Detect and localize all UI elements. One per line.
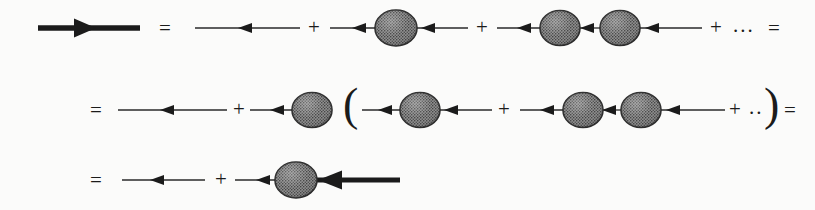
- row-3-group: [122, 162, 400, 198]
- double-self-energy-insertion: [497, 11, 702, 46]
- paren-open-row2: (: [343, 82, 358, 128]
- self-energy-times-full-propagator: [235, 162, 400, 198]
- equals-sign-row1-end: =: [768, 18, 780, 39]
- dyson-series-figure: = + + + ... = = + ( + + .. ) = = +: [0, 0, 815, 210]
- plus-sign-row2-a: +: [233, 99, 245, 120]
- plus-sign-row2-b: +: [498, 99, 510, 120]
- plus-sign-row1-b: +: [476, 17, 488, 38]
- plus-sign-row1-a: +: [308, 17, 320, 38]
- paren-close-row2: ): [764, 82, 779, 128]
- bare-propagator-line-row2: [118, 105, 227, 115]
- plus-sign-row1-c: +: [710, 17, 722, 38]
- equals-sign-row1: =: [159, 18, 171, 39]
- ellipsis-row2: ..: [749, 97, 764, 118]
- self-energy-blob-prefactor: [250, 93, 332, 128]
- equals-sign-row3: =: [90, 170, 102, 191]
- ellipsis-row1: ...: [733, 15, 755, 36]
- row-2-group: [118, 93, 725, 128]
- plus-sign-row2-c: +: [729, 99, 741, 120]
- full-propagator-bold-arrow: [38, 19, 140, 38]
- bare-propagator-line: [195, 23, 300, 33]
- single-self-energy-insertion: [330, 10, 468, 46]
- row-1-group: [38, 10, 702, 46]
- bracketed-bare-term: [362, 93, 492, 128]
- equals-sign-row2-end: =: [784, 100, 796, 121]
- bracketed-double-term: [520, 93, 725, 128]
- bare-propagator-line-row3: [122, 175, 205, 185]
- plus-sign-row3: +: [215, 169, 227, 190]
- diagram-canvas: [0, 0, 815, 210]
- equals-sign-row2: =: [90, 100, 102, 121]
